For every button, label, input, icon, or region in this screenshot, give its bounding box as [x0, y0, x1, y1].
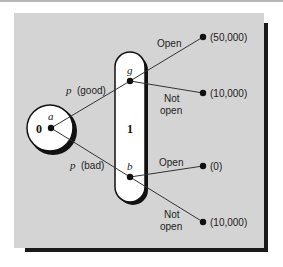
node-g-label: g: [127, 64, 133, 76]
outcome-4-action-line2: open: [160, 221, 182, 232]
outcome-2-action-line2: open: [160, 105, 182, 116]
branch-good-text: (good): [77, 85, 106, 96]
stage-0-number: 0: [36, 122, 42, 136]
outcome-3-dot: [200, 163, 206, 169]
branch-bad-prefix: p: [69, 159, 76, 171]
outcome-4-dot: [200, 219, 206, 225]
outcome-1-dot: [200, 34, 206, 40]
branch-bad-text: (bad): [81, 160, 104, 171]
outcome-1-action: Open: [157, 38, 181, 49]
decision-tree-diagram: 0 a 1 g b p (good) p (bad) Open Not open…: [0, 0, 283, 267]
outcome-2-payoff: (10,000): [210, 88, 247, 99]
outcome-1-payoff: (50,000): [210, 32, 247, 43]
node-g-dot: [127, 78, 133, 84]
node-a-label: a: [48, 110, 54, 122]
branch-good-prefix: p: [65, 84, 72, 96]
node-b-dot: [127, 174, 133, 180]
outcome-2-action: Not: [164, 93, 180, 104]
outcome-4-payoff: (10,000): [210, 217, 247, 228]
outcome-4-action: Not: [164, 209, 180, 220]
node-a-dot: [48, 125, 54, 131]
outcome-2-dot: [200, 90, 206, 96]
branch-good-label: p (good): [65, 80, 106, 97]
node-b-label: b: [127, 160, 133, 172]
outcome-3-action: Open: [159, 157, 183, 168]
outcome-3-payoff: (0): [210, 161, 222, 172]
stage-1-number: 1: [127, 122, 133, 136]
